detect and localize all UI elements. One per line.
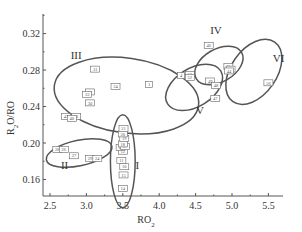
y-tick-label: 0.24 [23,101,41,112]
axes: 2.53.03.54.04.55.05.50.160.200.240.280.3… [23,14,284,211]
point-label: 44 [227,69,232,74]
x-tick-label: 2.5 [44,200,57,211]
group-label-V: V [196,104,204,116]
y-tick-label: 0.32 [23,28,41,39]
point-label: 24 [95,156,100,161]
point-label: 47 [213,96,218,101]
point-label: 11 [119,158,123,163]
point-label: 15 [121,173,126,178]
point-label: 1 [148,82,150,87]
data-point: 20 [118,131,127,137]
group-label-I: I [136,159,140,171]
group-label-IV: IV [210,24,222,36]
data-point: 15 [119,172,128,178]
data-point: 4 [178,73,185,79]
x-tick-label: 4.5 [189,200,202,211]
point-label: 33 [85,92,90,97]
x-tick-label: 5.0 [226,200,239,211]
data-point: 18 [118,141,127,147]
group-labels: IIIIIIIVVVI [61,24,285,171]
data-point: 14 [118,186,127,192]
data-point: 26 [59,146,68,152]
data-point: 30 [86,100,95,106]
data-point: 21 [119,125,128,131]
data-point: 1 [146,82,153,88]
point-label: 56 [266,81,271,86]
data-point: 56 [264,80,273,86]
scatter-chart: 2.53.03.54.04.55.05.50.160.200.240.280.3… [0,0,302,232]
data-point: 48 [211,83,220,89]
data-point: 52 [185,74,194,80]
y-axis-title: R2O/RO [5,101,20,135]
point-label: 27 [72,153,77,158]
y-tick-label: 0.20 [23,138,41,149]
point-label: 52 [188,75,193,80]
point-label: 40 [70,116,75,121]
point-label: 46 [206,43,211,48]
x-tick-label: 5.5 [262,200,275,211]
y-tick-label: 0.16 [23,174,41,185]
point-label: 21 [121,126,126,131]
data-point: 47 [211,95,220,101]
group-ellipse-II [44,134,115,173]
data-points: 1415101112131718192021282627292431343233… [53,42,273,191]
point-label: 29 [88,156,93,161]
point-label: 18 [121,142,126,147]
data-point: 31 [91,66,100,72]
group-label-III: III [71,49,82,61]
point-label: 10 [122,164,127,169]
data-point: 10 [120,164,129,170]
point-label: 20 [121,132,126,137]
y-tick-label: 0.28 [23,65,41,76]
data-point: 33 [83,92,92,98]
data-point: 40 [67,115,76,121]
data-point: 44 [225,68,234,74]
data-point: 11 [117,157,126,163]
x-tick-label: 4.0 [153,200,166,211]
point-label: 30 [88,101,93,106]
x-tick-label: 3.0 [80,200,93,211]
data-point: 34 [111,83,120,89]
point-label: 14 [121,186,126,191]
point-label: 48 [214,83,219,88]
data-point: 46 [204,42,213,48]
point-label: 34 [113,84,118,89]
group-label-VI: VI [273,52,285,64]
data-point: 24 [93,156,102,162]
point-label: 31 [93,67,98,72]
point-label: 26 [62,147,67,152]
data-point: 27 [70,153,79,159]
group-label-II: II [61,159,69,171]
x-axis-title: RO2 [137,214,155,229]
